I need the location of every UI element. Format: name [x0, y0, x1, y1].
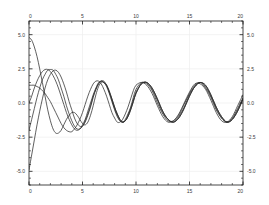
x-tick-label-top: 5: [81, 13, 84, 19]
y-tick-label-left: -5.0: [16, 168, 25, 174]
y-tick-label-right: -5.0: [247, 168, 256, 174]
chart-figure: 00551010151520205.05.02.52.50.00.0-2.5-2…: [0, 0, 269, 205]
y-tick-label-left: 0.0: [18, 100, 25, 106]
x-tick-label-top: 10: [133, 13, 139, 19]
x-tick-label-top: 0: [29, 13, 32, 19]
y-tick-label-right: 5.0: [247, 32, 254, 38]
x-tick-label-bottom: 5: [81, 188, 84, 194]
x-tick-label-bottom: 10: [133, 188, 139, 194]
y-tick-label-left: -2.5: [16, 134, 25, 140]
y-tick-label-left: 5.0: [18, 32, 25, 38]
x-tick-label-bottom: 15: [187, 188, 193, 194]
x-tick-label-bottom: 0: [29, 188, 32, 194]
line-chart: 00551010151520205.05.02.52.50.00.0-2.5-2…: [0, 0, 269, 205]
x-tick-label-top: 20: [237, 13, 243, 19]
y-tick-label-left: 2.5: [18, 66, 25, 72]
y-tick-label-right: 0.0: [247, 100, 254, 106]
x-tick-label-top: 15: [187, 13, 193, 19]
chart-background: [0, 0, 269, 205]
x-tick-label-bottom: 20: [237, 188, 243, 194]
y-tick-label-right: -2.5: [247, 134, 256, 140]
y-tick-label-right: 2.5: [247, 66, 254, 72]
